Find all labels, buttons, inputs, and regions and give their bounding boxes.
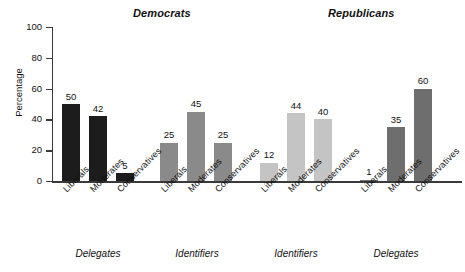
group-label-rep-identifiers: Identifiers xyxy=(274,248,317,259)
y-tick-label-0: 0 xyxy=(2,176,42,186)
value-dem-delegates-liberals: 50 xyxy=(62,92,80,102)
value-rep-identifiers-conservatives: 40 xyxy=(314,107,332,117)
value-dem-identifiers-moderates: 45 xyxy=(187,99,205,109)
value-dem-delegates-moderates: 42 xyxy=(89,104,107,114)
y-tick-label-40: 40 xyxy=(2,114,42,124)
y-tick-label-20: 20 xyxy=(2,145,42,155)
y-tick-label-60: 60 xyxy=(2,84,42,94)
group-label-rep-delegates: Delegates xyxy=(373,248,418,259)
group-label-dem-identifiers: Identifiers xyxy=(175,248,218,259)
value-rep-delegates-conservatives: 60 xyxy=(414,76,432,86)
plot-area: 50 42 5 25 45 25 12 44 40 1 35 60 xyxy=(52,27,462,181)
group-label-dem-delegates: Delegates xyxy=(75,248,120,259)
panel-title-republicans: Republicans xyxy=(328,7,395,19)
bar-chart-figure: Democrats Republicans Percentage 100 80 … xyxy=(0,0,465,272)
y-tick-label-100: 100 xyxy=(2,22,42,32)
value-rep-delegates-moderates: 35 xyxy=(387,115,405,125)
panel-title-democrats: Democrats xyxy=(133,7,191,19)
y-tick-0 xyxy=(46,181,52,182)
value-dem-identifiers-liberals: 25 xyxy=(160,130,178,140)
value-rep-identifiers-liberals: 12 xyxy=(260,150,278,160)
value-dem-identifiers-conservatives: 25 xyxy=(214,130,232,140)
y-tick-label-80: 80 xyxy=(2,53,42,63)
value-rep-identifiers-moderates: 44 xyxy=(287,101,305,111)
